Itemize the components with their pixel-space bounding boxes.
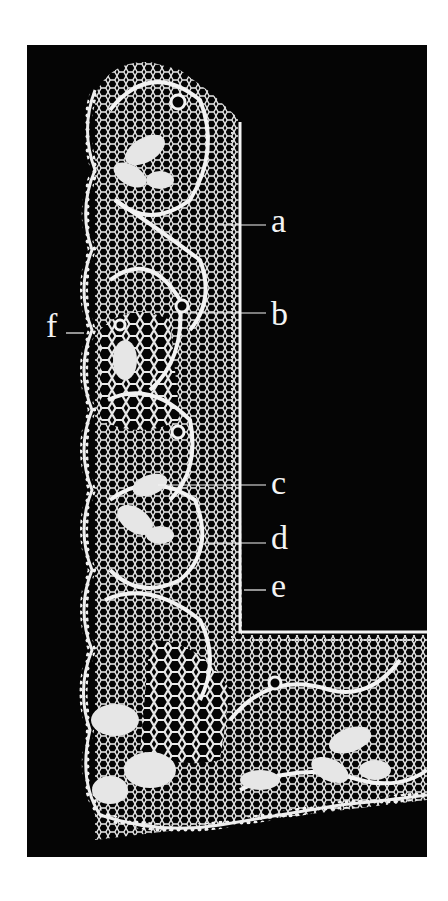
label-a: a xyxy=(271,204,286,238)
inner-edge xyxy=(240,122,427,632)
inner-edge-footing xyxy=(232,128,427,640)
label-e: e xyxy=(271,569,286,603)
label-d: d xyxy=(271,521,288,555)
label-b: b xyxy=(271,297,288,331)
label-f: f xyxy=(46,309,57,343)
lace-illustration xyxy=(0,0,448,901)
label-c: c xyxy=(271,466,286,500)
